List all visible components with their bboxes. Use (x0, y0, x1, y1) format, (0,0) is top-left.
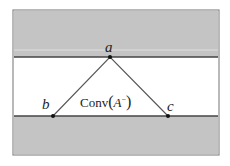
region-label: Conv(A−) (80, 94, 131, 110)
point-a (108, 55, 112, 59)
point-c (166, 114, 170, 118)
label-c: c (167, 99, 174, 114)
label-b: b (42, 97, 50, 112)
diagram-canvas (0, 0, 230, 166)
label-a: a (105, 40, 113, 55)
close-paren: ) (126, 93, 131, 110)
point-b (51, 114, 55, 118)
bottom-gray-band (14, 116, 218, 154)
conv-text: Conv (80, 95, 108, 110)
